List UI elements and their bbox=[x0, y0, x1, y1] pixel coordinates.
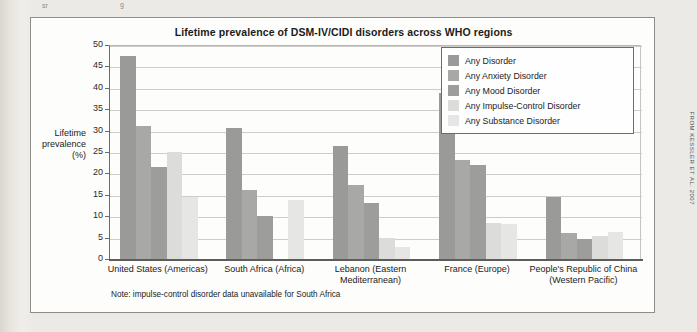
y-tick-label: 40 bbox=[79, 82, 103, 92]
chart-title: Lifetime prevalence of DSM-IV/CIDI disor… bbox=[31, 26, 656, 38]
bar bbox=[592, 236, 608, 259]
source-attribution: FROM KESSLER ET AL. 2007 bbox=[689, 111, 695, 205]
x-axis-group-label: People's Republic of China(Western Pacif… bbox=[508, 264, 658, 286]
y-axis-title-line-1: Lifetime bbox=[31, 128, 86, 139]
legend-swatch-icon bbox=[448, 115, 459, 126]
bar bbox=[257, 216, 273, 259]
y-axis-title-line-2: prevalence bbox=[31, 139, 86, 150]
y-tick-label: 30 bbox=[79, 125, 103, 135]
bar bbox=[242, 190, 258, 259]
legend-swatch-icon bbox=[448, 100, 459, 111]
gridline bbox=[110, 174, 642, 175]
bar bbox=[395, 247, 411, 259]
top-speck-1: sr bbox=[42, 2, 48, 9]
bar bbox=[120, 56, 136, 259]
chart-legend: Any DisorderAny Anxiety DisorderAny Mood… bbox=[441, 47, 634, 134]
y-axis-title: Lifetime prevalence (%) bbox=[31, 128, 86, 161]
bar bbox=[486, 223, 502, 259]
bar bbox=[226, 128, 242, 259]
bar bbox=[151, 167, 167, 259]
bar bbox=[577, 239, 593, 259]
bar bbox=[348, 185, 364, 259]
top-speck-2: g bbox=[120, 1, 124, 8]
legend-label: Any Anxiety Disorder bbox=[465, 71, 547, 81]
legend-swatch-icon bbox=[448, 85, 459, 96]
legend-item: Any Impulse-Control Disorder bbox=[448, 98, 627, 113]
chart-note: Note: impulse-control disorder data unav… bbox=[111, 290, 340, 299]
legend-item: Any Mood Disorder bbox=[448, 83, 627, 98]
bar bbox=[288, 200, 304, 259]
bar bbox=[167, 152, 183, 259]
legend-swatch-icon bbox=[448, 70, 459, 81]
bar bbox=[364, 203, 380, 259]
bar bbox=[608, 232, 624, 259]
bar bbox=[470, 165, 486, 259]
y-axis-title-line-3: (%) bbox=[31, 150, 86, 161]
y-tick-label: 20 bbox=[79, 167, 103, 177]
legend-item: Any Anxiety Disorder bbox=[448, 68, 627, 83]
legend-label: Any Mood Disorder bbox=[465, 86, 540, 96]
x-axis-label-line: (Western Pacific) bbox=[508, 275, 658, 286]
legend-item: Any Disorder bbox=[448, 53, 627, 68]
x-axis-label-line: Mediterranean) bbox=[296, 275, 446, 286]
bar bbox=[136, 126, 152, 259]
y-tick-label: 15 bbox=[79, 189, 103, 199]
y-tick-label: 0 bbox=[79, 253, 103, 263]
y-tick-label: 45 bbox=[79, 60, 103, 70]
y-tick-label: 25 bbox=[79, 146, 103, 156]
bar bbox=[182, 197, 198, 259]
legend-item: Any Substance Disorder bbox=[448, 113, 627, 128]
bar bbox=[379, 238, 395, 259]
legend-label: Any Impulse-Control Disorder bbox=[465, 101, 580, 111]
bar bbox=[561, 233, 577, 259]
y-tick-label: 10 bbox=[79, 210, 103, 220]
y-tick-label: 35 bbox=[79, 103, 103, 113]
bar bbox=[455, 160, 471, 259]
x-axis-label-line: People's Republic of China bbox=[508, 264, 658, 275]
legend-label: Any Substance Disorder bbox=[465, 116, 560, 126]
bar bbox=[546, 197, 562, 259]
figure-card: Lifetime prevalence of DSM-IV/CIDI disor… bbox=[30, 17, 655, 313]
y-tick-label: 5 bbox=[79, 232, 103, 242]
page-top-artifacts: sr g bbox=[0, 0, 697, 14]
legend-swatch-icon bbox=[448, 55, 459, 66]
bar bbox=[333, 146, 349, 259]
bar bbox=[501, 224, 517, 259]
gridline bbox=[110, 153, 642, 154]
legend-label: Any Disorder bbox=[465, 56, 516, 66]
y-tick-label: 50 bbox=[79, 39, 103, 49]
